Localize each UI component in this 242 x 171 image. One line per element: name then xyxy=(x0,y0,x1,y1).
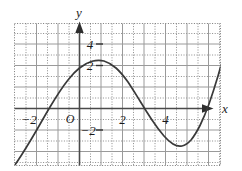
xtick-label-4: 4 xyxy=(162,112,169,127)
ytick-label-2: 2 xyxy=(87,58,94,73)
xtick-label-2: 2 xyxy=(119,112,126,127)
y-axis-label: y xyxy=(74,5,82,20)
graph-figure: −2 2 4 4 2 −2 O x y xyxy=(0,0,242,171)
xtick-label-minus2: −2 xyxy=(21,112,37,127)
ytick-label-minus2: −2 xyxy=(80,123,96,138)
x-axis-label: x xyxy=(221,101,228,116)
plot-background xyxy=(15,24,221,166)
cubic-graph-svg: −2 2 4 4 2 −2 O x y xyxy=(0,0,242,171)
origin-label: O xyxy=(66,112,75,126)
ytick-label-4: 4 xyxy=(87,37,94,52)
